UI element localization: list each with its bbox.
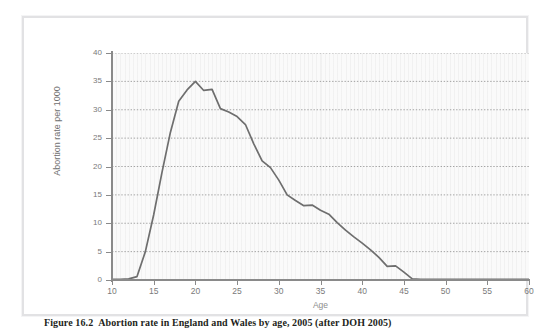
x-axis-tick (362, 280, 363, 285)
y-axis-tick-label: 35 (80, 76, 102, 85)
chart-series-layer (112, 53, 529, 280)
y-axis-tick-label: 10 (80, 218, 102, 227)
x-axis-tick (321, 280, 322, 285)
x-axis-tick (404, 280, 405, 285)
x-axis-tick-label: 50 (434, 286, 458, 296)
figure-caption-number: Figure 16.2 (44, 317, 93, 328)
y-axis-tick (106, 110, 112, 111)
y-axis-tick-label: 0 (80, 275, 102, 284)
x-axis-tick-label: 30 (267, 286, 291, 296)
y-axis-tick (106, 138, 112, 139)
x-axis-tick (112, 280, 113, 285)
x-axis-tick-label: 60 (517, 286, 541, 296)
y-axis-tick (106, 223, 112, 224)
x-axis-tick (279, 280, 280, 285)
figure-container: 0510152025303540 1015202530354045505560 … (22, 16, 528, 316)
x-axis-tick-label: 15 (142, 286, 166, 296)
x-axis-tick (446, 280, 447, 285)
chart-plot-area (112, 53, 529, 280)
y-axis-tick (106, 167, 112, 168)
x-axis-tick-label: 35 (309, 286, 333, 296)
figure-caption: Figure 16.2Abortion rate in England and … (44, 317, 516, 328)
x-axis-title: Age (112, 300, 529, 310)
x-axis-tick (237, 280, 238, 285)
y-axis-tick (106, 81, 112, 82)
y-axis-tick-label: 15 (80, 190, 102, 199)
y-axis-tick-label: 5 (80, 247, 102, 256)
x-axis-tick-label: 55 (475, 286, 499, 296)
x-axis-tick-label: 25 (225, 286, 249, 296)
x-axis-tick-label: 45 (392, 286, 416, 296)
y-axis-tick-label: 30 (80, 105, 102, 114)
x-axis-tick-label: 40 (350, 286, 374, 296)
x-axis-tick (154, 280, 155, 285)
y-axis-tick (106, 252, 112, 253)
x-axis-tick-label: 20 (183, 286, 207, 296)
y-axis-tick-label: 20 (80, 162, 102, 171)
y-axis-title: Abortion rate per 1000 (52, 61, 62, 201)
x-axis-tick (195, 280, 196, 285)
x-axis-tick (529, 280, 530, 285)
x-axis-tick-label: 10 (100, 286, 124, 296)
y-axis-tick-label: 40 (80, 48, 102, 57)
figure-caption-text: Abortion rate in England and Wales by ag… (98, 317, 391, 328)
x-axis-tick (487, 280, 488, 285)
y-axis-tick (106, 195, 112, 196)
y-axis-tick-label: 25 (80, 133, 102, 142)
page-top-text-fragment (0, 0, 552, 14)
y-axis-tick (106, 53, 112, 54)
